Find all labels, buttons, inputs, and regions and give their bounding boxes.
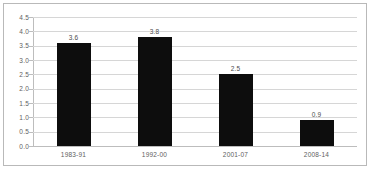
bar-value-label: 3.8	[135, 28, 175, 35]
y-axis-tick	[29, 17, 33, 18]
y-axis-tick	[29, 74, 33, 75]
bar	[300, 120, 334, 146]
y-axis-tick-label: 0.0	[3, 143, 29, 150]
y-axis-tick-label: 1.5	[3, 100, 29, 107]
bar-value-label: 0.9	[297, 111, 337, 118]
y-axis-tick-label: 3.5	[3, 42, 29, 49]
x-axis-category-label: 2001-07	[206, 151, 266, 159]
y-axis-tick	[29, 89, 33, 90]
y-axis-tick-label: 2.5	[3, 71, 29, 78]
y-axis-tick	[29, 60, 33, 61]
y-axis-tick	[29, 46, 33, 47]
bar	[57, 43, 91, 146]
y-axis-tick-label: 0.5	[3, 128, 29, 135]
y-axis-tick-label: 3.0	[3, 57, 29, 64]
y-axis-tick	[29, 132, 33, 133]
y-axis-tick	[29, 117, 33, 118]
gridline	[33, 17, 357, 18]
y-axis-labels: 4.54.03.53.02.52.01.51.00.50.0	[0, 0, 29, 171]
bar-chart-figure: 4.54.03.53.02.52.01.51.00.50.0 3.63.82.5…	[0, 0, 372, 171]
x-axis-category-label: 1983-91	[44, 151, 104, 159]
bar-value-label: 2.5	[216, 65, 256, 72]
y-axis-tick-label: 1.0	[3, 114, 29, 121]
bar	[138, 37, 172, 146]
y-axis-tick-label: 4.0	[3, 28, 29, 35]
x-axis-category-label: 2008-14	[287, 151, 347, 159]
y-axis-tick-label: 2.0	[3, 85, 29, 92]
y-axis-tick	[29, 146, 33, 147]
x-axis-category-label: 1992-00	[125, 151, 185, 159]
bar	[219, 74, 253, 146]
y-axis-tick	[29, 31, 33, 32]
bar-value-label: 3.6	[54, 34, 94, 41]
axis-baseline	[33, 146, 357, 147]
y-axis-tick-label: 4.5	[3, 14, 29, 21]
gridline	[33, 31, 357, 32]
y-axis-tick	[29, 103, 33, 104]
